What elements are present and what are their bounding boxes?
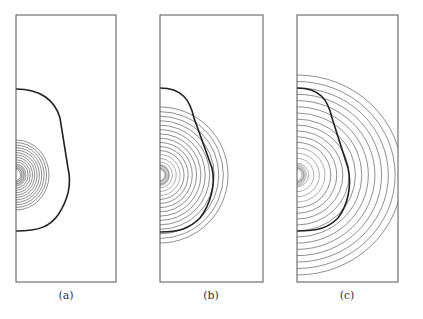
panel-c [192, 15, 402, 282]
panel-frame [16, 15, 116, 282]
panel-frame [160, 15, 263, 282]
panel-label-a: (a) [58, 289, 73, 302]
contour-figure [0, 0, 423, 319]
boundary-contour [16, 89, 70, 231]
panel-b [92, 15, 263, 282]
boundary-contour [297, 88, 350, 231]
panel-label-b: (b) [203, 289, 219, 302]
panel-label-c: (c) [340, 289, 355, 302]
contour-lines [0, 140, 49, 210]
boundary-contour [160, 88, 213, 232]
figure: (a) (b) (c) [0, 0, 423, 319]
panel-a [0, 15, 116, 282]
